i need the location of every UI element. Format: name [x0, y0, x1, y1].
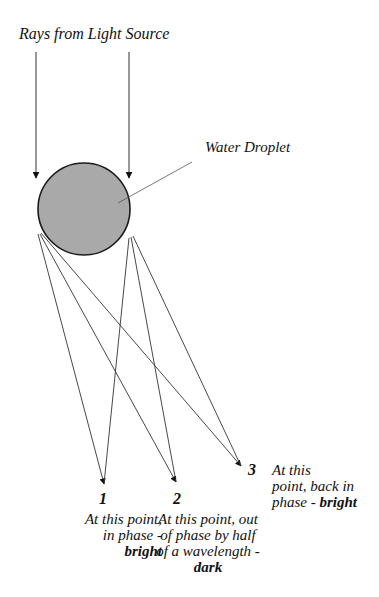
point-3-caption: At this point, back in phase - bright	[272, 462, 357, 510]
point-1-number: 1	[99, 490, 107, 508]
point-2-line-2: of phase by half	[143, 527, 273, 543]
ray-left-to-point-1	[38, 234, 104, 484]
point-3-line-1: At this	[272, 462, 357, 478]
point-2-number: 2	[173, 490, 181, 508]
diagram-title: Rays from Light Source	[19, 26, 169, 42]
point-3-line-2: point, back in	[272, 478, 357, 494]
ray-left-to-point-3	[41, 233, 241, 466]
point-2-caption: At this point, out of phase by half of a…	[143, 511, 273, 575]
ray-right-to-point-3	[133, 236, 241, 466]
point-2-emphasis: dark	[194, 559, 222, 575]
water-droplet	[38, 163, 130, 255]
point-3-line-3: phase -	[272, 494, 320, 510]
point-2-line-1: At this point, out	[143, 511, 273, 527]
point-3-number: 3	[248, 461, 256, 479]
ray-right-to-point-1	[104, 238, 129, 484]
point-3-emphasis: bright	[320, 494, 358, 510]
water-droplet-label: Water Droplet	[205, 139, 290, 155]
ray-right-to-point-2	[131, 237, 176, 482]
point-2-line-3: of a wavelength -	[143, 543, 273, 559]
